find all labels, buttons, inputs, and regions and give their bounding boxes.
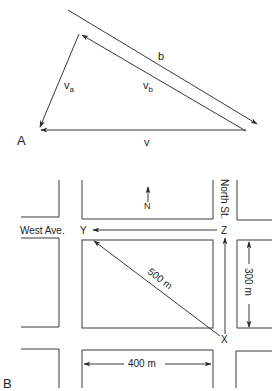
- street-north-st: North St.: [219, 179, 230, 218]
- vector-va-arrow: [40, 34, 79, 127]
- point-y: Y: [80, 225, 87, 236]
- block-bottom-left: [21, 349, 59, 388]
- block-bottom-right: [236, 351, 272, 388]
- compass-label: N: [144, 201, 151, 211]
- diagram-canvas: b va vb v A N West Ave. North St. Y: [0, 0, 277, 391]
- street-west-ave: West Ave.: [20, 225, 65, 236]
- block-middle-left: [21, 238, 59, 327]
- block-bottom-middle: [82, 350, 213, 388]
- point-x: X: [221, 334, 228, 345]
- block-top-left: [21, 180, 59, 217]
- block-top-right: [237, 180, 272, 220]
- street-blocks: [21, 180, 272, 388]
- dimension-diagonal: 500 m: [146, 266, 175, 292]
- panel-a: [40, 10, 257, 131]
- vector-b-arrow: [68, 10, 257, 124]
- point-z: Z: [221, 225, 227, 236]
- block-center: [82, 240, 213, 328]
- arrow-x-to-y-diagonal: [94, 241, 220, 336]
- panel-b-label: B: [3, 376, 12, 391]
- vector-v-label: v: [144, 136, 150, 148]
- dimension-height: 300 m: [243, 268, 254, 296]
- vector-b-label: b: [158, 50, 164, 62]
- vector-va-label: va: [64, 79, 75, 94]
- dimension-width: 400 m: [128, 358, 156, 369]
- vector-vb-label: vb: [143, 79, 154, 94]
- panel-a-label: A: [17, 133, 26, 148]
